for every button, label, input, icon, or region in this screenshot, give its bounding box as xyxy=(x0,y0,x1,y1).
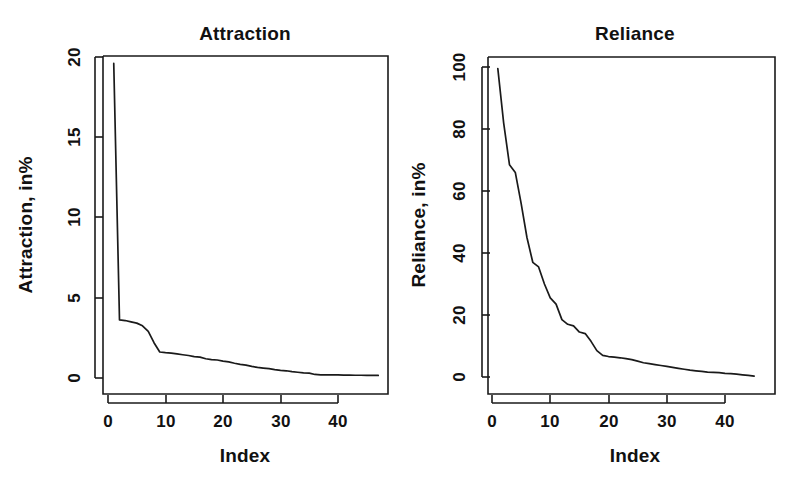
y-tick-label-5: 5 xyxy=(65,293,84,303)
x-tick-label-0: 0 xyxy=(487,412,497,431)
x-tick-label-40: 40 xyxy=(715,412,734,431)
y-axis-label-reliance: Reliance, in% xyxy=(408,162,429,287)
x-tick-label-20: 20 xyxy=(599,412,618,431)
y-tick-label-0: 0 xyxy=(65,373,84,383)
reliance-plot-svg: Reliance Reliance, in% Index 100 80 60 4… xyxy=(403,0,807,480)
chart-panel-reliance: Reliance Reliance, in% Index 100 80 60 4… xyxy=(403,0,807,480)
y-tick-label-15: 15 xyxy=(65,127,84,146)
x-axis-label-attraction: Index xyxy=(220,445,271,466)
x-tick-label-10: 10 xyxy=(156,412,175,431)
y-tick-label-40: 40 xyxy=(450,243,469,262)
plot-box-reliance xyxy=(488,57,775,394)
figure-root: Attraction Attraction, in% Index 20 15 1… xyxy=(0,0,807,480)
y-tick-label-60: 60 xyxy=(450,181,469,200)
x-axis-label-reliance: Index xyxy=(610,445,661,466)
y-tick-label-100: 100 xyxy=(450,53,469,82)
data-line-attraction xyxy=(114,63,379,375)
y-axis-attraction: 20 15 10 5 0 xyxy=(65,47,103,382)
y-tick-label-20: 20 xyxy=(450,305,469,324)
x-tick-label-0: 0 xyxy=(103,412,113,431)
y-tick-label-10: 10 xyxy=(65,207,84,226)
plot-box-attraction xyxy=(103,56,388,394)
y-tick-label-80: 80 xyxy=(450,119,469,138)
y-tick-label-0: 0 xyxy=(450,372,469,382)
x-tick-label-10: 10 xyxy=(540,412,559,431)
chart-title-attraction: Attraction xyxy=(199,23,291,44)
x-axis-reliance: 0 10 20 30 40 xyxy=(487,395,734,431)
x-tick-label-40: 40 xyxy=(328,412,347,431)
attraction-plot-svg: Attraction Attraction, in% Index 20 15 1… xyxy=(0,0,404,480)
x-axis-attraction: 0 10 20 30 40 xyxy=(103,395,347,431)
chart-title-reliance: Reliance xyxy=(595,23,675,44)
y-axis-label-attraction: Attraction, in% xyxy=(15,156,36,293)
x-tick-label-30: 30 xyxy=(271,412,290,431)
chart-panel-attraction: Attraction Attraction, in% Index 20 15 1… xyxy=(0,0,404,480)
data-line-reliance xyxy=(498,69,754,377)
y-tick-label-20: 20 xyxy=(65,47,84,66)
x-tick-label-30: 30 xyxy=(657,412,676,431)
y-axis-reliance: 100 80 60 40 20 0 xyxy=(450,53,490,382)
x-tick-label-20: 20 xyxy=(213,412,232,431)
